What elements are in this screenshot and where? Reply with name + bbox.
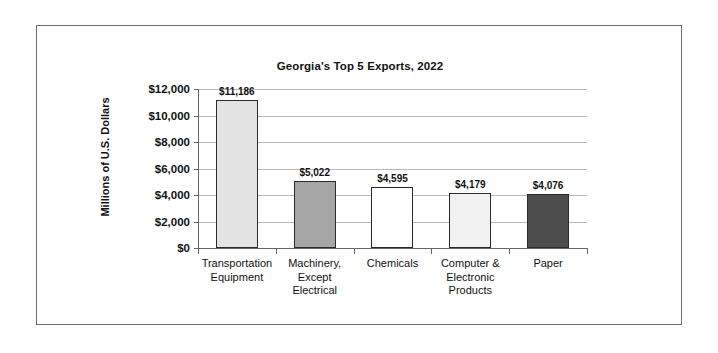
x-tick-mark [198,248,199,254]
bar[interactable] [294,181,336,248]
plot-area: $0$2,000$4,000$6,000$8,000$10,000$12,000… [198,89,587,248]
x-tick-mark [354,248,355,254]
y-tick-label: $6,000 [155,163,190,175]
bar[interactable] [449,193,491,248]
screenshot-canvas: Georgia's Top 5 Exports, 2022 Millions o… [0,0,718,353]
chart-frame: Georgia's Top 5 Exports, 2022 Millions o… [36,25,682,325]
x-tick-mark [587,248,588,254]
bar-category-slot: $4,179Computer &ElectronicProducts [431,89,509,248]
y-tick-label: $0 [177,242,190,254]
x-tick-mark [509,248,510,254]
y-tick-label: $8,000 [155,136,190,148]
bar-category-slot: $11,186TransportationEquipment [198,89,276,248]
bar-category-slot: $5,022Machinery,ExceptElectrical [276,89,354,248]
y-tick-label: $2,000 [155,216,190,228]
x-tick-mark [276,248,277,254]
x-tick-mark [431,248,432,254]
bar-category-slot: $4,595Chemicals [354,89,432,248]
bar-value-label: $11,186 [219,86,255,97]
y-axis-title: Millions of U.S. Dollars [99,77,111,237]
chart-title: Georgia's Top 5 Exports, 2022 [37,60,683,72]
y-tick-label: $10,000 [148,110,190,122]
y-tick-label: $12,000 [148,83,190,95]
bar[interactable] [216,100,258,248]
bar-value-label: $5,022 [299,167,330,178]
bar[interactable] [527,194,569,248]
bar-value-label: $4,076 [533,180,564,191]
x-axis-category-label: Paper [502,257,594,271]
x-axis-line [198,248,587,249]
y-tick-label: $4,000 [155,189,190,201]
bar[interactable] [371,187,413,248]
bar-category-slot: $4,076Paper [509,89,587,248]
bar-value-label: $4,595 [377,173,408,184]
bar-value-label: $4,179 [455,179,486,190]
